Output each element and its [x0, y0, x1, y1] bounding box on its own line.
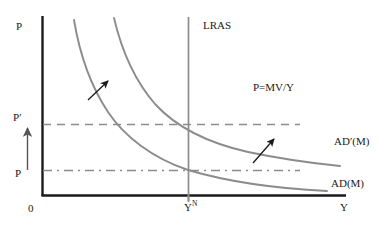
- ad-as-diagram: P LRAS P=MV/Y P′ P 0 YN Y AD′(M) AD(M): [0, 0, 382, 234]
- lras-label: LRAS: [203, 20, 231, 31]
- ad-shifted-curve: [114, 18, 340, 166]
- natural-output-label: YN: [184, 202, 197, 213]
- quantity-equation-label: P=MV/Y: [253, 82, 294, 93]
- natural-output-letter: Y: [184, 201, 192, 213]
- origin-label: 0: [28, 203, 34, 214]
- price-high-label: P′: [13, 112, 22, 123]
- x-axis-label: Y: [340, 202, 348, 213]
- price-high-prime: ′: [19, 111, 21, 123]
- ad-shifted-curve-label: AD′(M): [334, 136, 369, 147]
- natural-output-superscript: N: [192, 199, 197, 208]
- ad-curve-label: AD(M): [331, 178, 364, 189]
- curve-shift-arrow-upper: [88, 81, 108, 100]
- y-axis-label: P: [16, 21, 22, 32]
- price-low-label: P: [15, 168, 21, 179]
- curve-shift-arrow-lower: [253, 139, 274, 163]
- ad-curve: [74, 20, 327, 191]
